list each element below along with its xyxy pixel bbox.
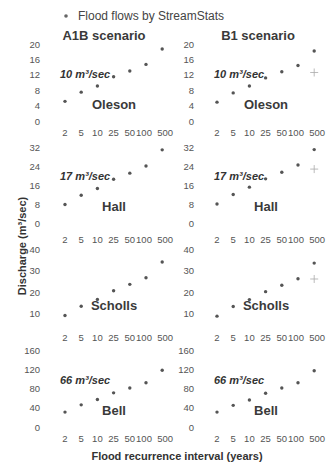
y-tick-label: 16 xyxy=(29,54,40,65)
x-tick-label: 500 xyxy=(309,234,325,245)
x-tick-label: 2 xyxy=(214,332,219,343)
y-tick-label: 0 xyxy=(35,116,40,127)
data-point xyxy=(313,369,316,372)
data-point xyxy=(128,69,131,72)
panel-bell-a1b: 040801201602510255010050066 m³/secBell xyxy=(24,345,173,445)
y-tick-label: 120 xyxy=(24,364,40,375)
y-tick-label: 12 xyxy=(29,69,40,80)
y-tick-label: 0 xyxy=(189,422,194,433)
threshold-annotation: 66 m³/sec xyxy=(214,374,264,386)
x-tick-label: 10 xyxy=(92,127,103,138)
threshold-annotation: 10 m³/sec xyxy=(60,68,110,80)
site-label: Bell xyxy=(102,403,126,418)
x-tick-label: 500 xyxy=(157,127,173,138)
x-tick-label: 50 xyxy=(277,234,288,245)
x-tick-label: 5 xyxy=(231,127,236,138)
y-tick-label: 24 xyxy=(29,161,40,172)
data-point xyxy=(248,298,251,301)
x-tick-label: 500 xyxy=(157,433,173,444)
x-tick-label: 500 xyxy=(309,127,325,138)
panel-hall-a1b: 081624322510255010050017 m³/secHall xyxy=(29,142,173,246)
data-point xyxy=(313,148,316,151)
panel-hall-b1: 081624322510255010050017 m³/secHall xyxy=(183,142,325,246)
y-tick-label: 40 xyxy=(29,244,40,255)
data-point xyxy=(63,314,66,317)
scenario-title-b1: B1 scenario xyxy=(221,28,295,43)
plus-marker xyxy=(310,275,318,283)
threshold-annotation: 17 m³/sec xyxy=(214,170,264,182)
y-tick-label: 40 xyxy=(183,402,194,413)
x-tick-label: 10 xyxy=(244,234,255,245)
scenario-title-a1b: A1B scenario xyxy=(62,28,145,43)
y-tick-label: 160 xyxy=(178,345,194,356)
data-point xyxy=(128,386,131,389)
x-tick-label: 100 xyxy=(136,332,152,343)
x-tick-label: 25 xyxy=(108,433,119,444)
y-tick-label: 24 xyxy=(183,161,194,172)
site-label: Oleson xyxy=(92,97,136,112)
data-point xyxy=(264,76,267,79)
panel-oleson-a1b: 0481216202510255010050010 m³/secOleson xyxy=(29,39,173,139)
x-tick-label: 5 xyxy=(79,127,84,138)
data-point xyxy=(232,404,235,407)
y-tick-label: 80 xyxy=(29,383,40,394)
x-tick-label: 25 xyxy=(260,234,271,245)
data-point xyxy=(80,403,83,406)
x-tick-label: 2 xyxy=(214,433,219,444)
legend: Flood flows by StreamStats xyxy=(64,9,224,23)
x-tick-label: 500 xyxy=(309,332,325,343)
data-point xyxy=(80,194,83,197)
x-tick-label: 25 xyxy=(260,332,271,343)
site-label: Hall xyxy=(254,199,278,214)
data-point xyxy=(144,63,147,66)
x-tick-label: 10 xyxy=(92,332,103,343)
data-point xyxy=(161,148,164,151)
x-tick-label: 100 xyxy=(288,234,304,245)
x-tick-label: 100 xyxy=(136,234,152,245)
data-point xyxy=(112,75,115,78)
site-label: Hall xyxy=(102,199,126,214)
data-point xyxy=(128,283,131,286)
y-tick-label: 40 xyxy=(183,244,194,255)
x-tick-label: 25 xyxy=(108,332,119,343)
x-axis-label: Flood recurrence interval (years) xyxy=(91,450,263,462)
data-point xyxy=(215,314,218,317)
plus-marker xyxy=(310,165,318,173)
x-tick-label: 10 xyxy=(244,127,255,138)
data-point xyxy=(264,290,267,293)
figure: Flood flows by StreamStats A1B scenario … xyxy=(0,0,336,475)
data-point xyxy=(248,84,251,87)
x-tick-label: 10 xyxy=(92,433,103,444)
data-point xyxy=(63,410,66,413)
panel-scholls-b1: 1020304025102550100500Scholls xyxy=(183,244,325,343)
data-point xyxy=(63,100,66,103)
y-tick-label: 4 xyxy=(189,100,194,111)
data-point xyxy=(264,177,267,180)
x-tick-label: 5 xyxy=(231,234,236,245)
x-tick-label: 2 xyxy=(62,433,67,444)
x-tick-label: 5 xyxy=(231,433,236,444)
x-tick-label: 50 xyxy=(125,433,136,444)
panels: 0481216202510255010050010 m³/secOleson04… xyxy=(24,39,325,445)
y-tick-label: 120 xyxy=(178,364,194,375)
x-tick-label: 5 xyxy=(79,234,84,245)
y-tick-label: 20 xyxy=(29,39,40,50)
data-point xyxy=(80,90,83,93)
threshold-annotation: 10 m³/sec xyxy=(214,68,264,80)
legend-marker xyxy=(64,14,68,18)
y-tick-label: 0 xyxy=(35,218,40,229)
y-tick-label: 8 xyxy=(35,85,40,96)
data-point xyxy=(313,49,316,52)
y-tick-label: 30 xyxy=(183,265,194,276)
data-point xyxy=(96,187,99,190)
data-point xyxy=(232,193,235,196)
y-tick-label: 0 xyxy=(189,116,194,127)
y-tick-label: 160 xyxy=(24,345,40,356)
y-tick-label: 12 xyxy=(183,69,194,80)
y-tick-label: 8 xyxy=(35,199,40,210)
data-point xyxy=(248,398,251,401)
x-tick-label: 500 xyxy=(309,433,325,444)
y-tick-label: 8 xyxy=(189,85,194,96)
x-tick-label: 2 xyxy=(214,127,219,138)
x-tick-label: 10 xyxy=(92,234,103,245)
